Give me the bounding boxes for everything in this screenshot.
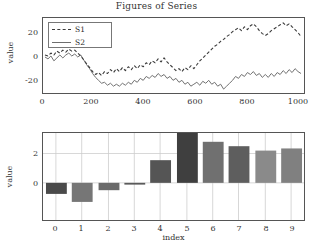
top-chart-axes: S1 S2 [42, 17, 305, 94]
bottom-chart-axes [42, 132, 305, 221]
legend-item-s2[interactable]: S2 [52, 38, 107, 47]
bar-0[interactable] [46, 183, 67, 194]
bottom-chart-ytick-0: 0 [18, 179, 38, 188]
bottom-chart-xtick-4: 4 [150, 224, 170, 233]
figure-canvas: Figures of Series value 20 0 -20 S1 S2 0… [0, 0, 313, 244]
top-chart-xtick-600: 600 [183, 97, 207, 106]
bar-9[interactable] [281, 148, 302, 182]
top-chart-xtick-1000: 1000 [284, 97, 312, 106]
top-chart-xtick-0: 0 [32, 97, 52, 106]
bottom-chart-xtick-8: 8 [256, 224, 276, 233]
bottom-chart-plot [43, 133, 304, 220]
bar-4[interactable] [150, 160, 171, 183]
top-chart-legend[interactable]: S1 S2 [48, 22, 112, 48]
bottom-chart-xtick-9: 9 [282, 224, 302, 233]
legend-item-s1[interactable]: S1 [52, 25, 107, 34]
figure-title: Figures of Series [0, 1, 313, 11]
bottom-chart-ytick-2: 2 [18, 149, 38, 158]
bottom-chart-xtick-1: 1 [71, 224, 91, 233]
bottom-chart-xtick-7: 7 [229, 224, 249, 233]
top-chart-xtick-200: 200 [79, 97, 103, 106]
top-chart-ytick-neg20: -20 [10, 76, 38, 85]
series-s2-line [45, 53, 301, 89]
bar-7[interactable] [229, 146, 250, 183]
top-chart-xtick-400: 400 [131, 97, 155, 106]
legend-label-s1: S1 [75, 25, 85, 34]
top-chart-ytick-20: 20 [14, 28, 38, 37]
legend-label-s2: S2 [75, 38, 85, 47]
dashed-line-icon [52, 29, 71, 30]
bottom-chart-xtick-3: 3 [124, 224, 144, 233]
solid-line-icon [52, 42, 71, 43]
bar-1[interactable] [72, 183, 93, 202]
top-chart-ytick-0: 0 [14, 52, 38, 61]
bar-2[interactable] [99, 183, 120, 190]
bottom-chart-xtick-6: 6 [203, 224, 223, 233]
top-chart-xtick-800: 800 [235, 97, 259, 106]
bar-6[interactable] [203, 142, 224, 183]
bottom-chart-xtick-5: 5 [177, 224, 197, 233]
bottom-chart-xtick-0: 0 [45, 224, 65, 233]
bar-5[interactable] [177, 133, 198, 183]
bottom-chart-ylabel: value [5, 157, 14, 197]
bottom-chart-xlabel: index [42, 233, 305, 242]
bottom-chart-xtick-2: 2 [98, 224, 118, 233]
bar-8[interactable] [255, 151, 276, 183]
bar-3[interactable] [124, 183, 145, 185]
